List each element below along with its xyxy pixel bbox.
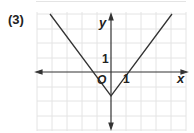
y-tick-label: 1 (102, 52, 109, 66)
y-axis-label: y (98, 15, 107, 30)
arrow-down-icon (109, 123, 113, 129)
arrow-up-icon (109, 14, 113, 20)
x-axis-label: x (176, 71, 185, 86)
coordinate-graph: y x O 1 1 (0, 0, 194, 133)
origin-label: O (97, 73, 107, 87)
x-tick-label: 1 (123, 72, 130, 86)
